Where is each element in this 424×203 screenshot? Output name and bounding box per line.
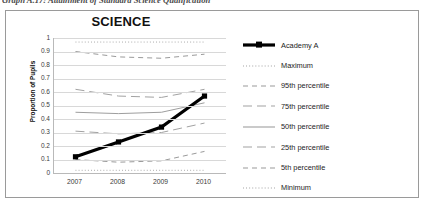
legend-item-label: Minimum [281,183,311,192]
legend-item[interactable]: Academy A [242,35,417,55]
figure-caption: Graph A.17: Attainment of Standard Scien… [0,0,424,9]
legend-item[interactable]: 5th percentile [242,157,417,177]
y-tick-label: 0.8 [28,62,50,69]
y-tick-label: 0.4 [28,116,50,123]
x-axis-tick-labels: 2007200820092010 [53,178,225,190]
legend-swatch-icon [242,39,276,51]
legend-item[interactable]: 50th percentile [242,117,417,137]
legend-swatch-icon [242,121,276,133]
gridline [54,106,226,107]
y-tick-label: 0.9 [28,48,50,55]
series-line [76,52,205,59]
series-line [76,89,205,97]
series-marker [159,125,164,130]
gridline [54,146,226,147]
series-marker [202,93,207,98]
series-marker [116,139,121,144]
legend-item-label: 25th percentile [281,143,329,152]
gridline [54,92,226,93]
gridline [54,38,226,39]
legend-item-label: Maximum [281,61,313,70]
y-tick-label: 0.6 [28,89,50,96]
figure-caption-text: Graph A.17: Attainment of Standard Scien… [2,0,210,5]
y-tick-label: 0 [28,170,50,177]
legend-item-label: 75th percentile [281,102,329,111]
legend-item[interactable]: 95th percentile [242,76,417,96]
legend-swatch-icon [242,182,276,194]
legend-swatch-icon [242,100,276,112]
chart-legend: Academy AMaximum95th percentile75th perc… [242,35,417,198]
plot-area [53,38,226,174]
legend-swatch-icon [242,60,276,72]
legend-item[interactable]: Maximum [242,55,417,75]
legend-item-label: 50th percentile [281,122,329,131]
y-tick-label: 0.1 [28,156,50,163]
legend-item-label: 5th percentile [281,163,325,172]
page-root: Graph A.17: Attainment of Standard Scien… [0,0,424,203]
y-tick-label: 0.7 [28,75,50,82]
gridline [54,160,226,161]
chart-frame: SCIENCE Proportion of Pupils 00.10.20.30… [5,10,419,198]
y-tick-label: 0.5 [28,102,50,109]
legend-item-label: 95th percentile [281,81,329,90]
legend-item[interactable]: 75th percentile [242,96,417,116]
gridline [54,119,226,120]
legend-item[interactable]: 25th percentile [242,137,417,157]
gridline [54,133,226,134]
legend-item-label: Academy A [281,41,318,50]
gridline [54,65,226,66]
x-tick-label: 2008 [98,178,138,185]
gridline [54,79,226,80]
legend-swatch-icon [242,80,276,92]
y-axis-tick-labels: 00.10.20.30.40.50.60.70.80.91 [28,35,50,175]
legend-item[interactable]: Minimum [242,178,417,198]
x-tick-label: 2007 [55,178,95,185]
legend-swatch-icon [242,141,276,153]
series-line [76,151,205,162]
y-tick-label: 0.3 [28,129,50,136]
x-tick-label: 2009 [141,178,181,185]
x-tick-label: 2010 [184,178,224,185]
y-tick-label: 1 [28,35,50,42]
y-tick-label: 0.2 [28,143,50,150]
legend-swatch-icon [242,162,276,174]
gridline [54,52,226,53]
chart-title: SCIENCE [6,14,236,29]
